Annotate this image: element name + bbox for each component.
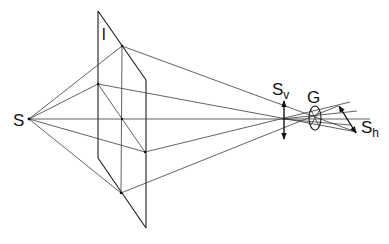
rays-from-source xyxy=(29,46,282,193)
plane-nodes xyxy=(28,45,147,194)
lens-icon xyxy=(309,106,321,130)
label-plane: l xyxy=(102,26,106,43)
label-source: S xyxy=(13,111,24,130)
projection-diagram: S l Sv G Sh xyxy=(0,0,389,244)
label-lens: G xyxy=(307,88,320,107)
converging-rays xyxy=(98,46,370,193)
label-horizontal-size: Sh xyxy=(361,118,379,140)
label-vertical-size: Sv xyxy=(272,80,289,102)
